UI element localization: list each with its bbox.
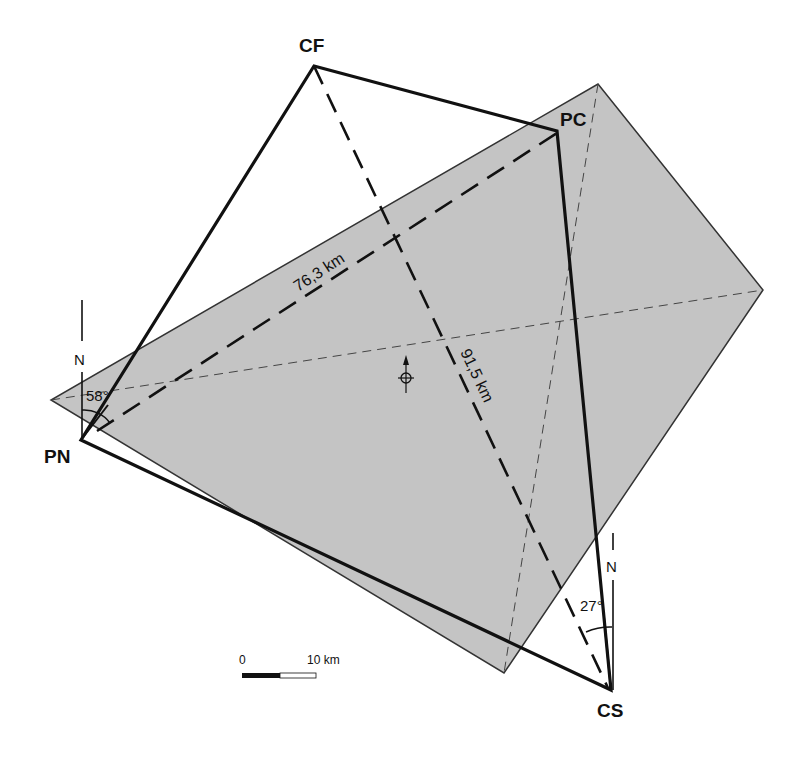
scale-end-label: 10 km xyxy=(307,653,340,667)
north-label-pn: N xyxy=(74,351,85,368)
cs-inner-ray xyxy=(604,617,611,690)
map-diagram: N N 58° 27° 76,3 km 91,5 km CF PC CS PN … xyxy=(0,0,805,758)
vertex-label-cf: CF xyxy=(299,35,324,56)
scale-bar: 0 10 km xyxy=(239,653,340,678)
scale-start-label: 0 xyxy=(239,653,246,667)
vertex-label-pn: PN xyxy=(44,446,70,467)
angle-label-pn: 58° xyxy=(86,387,109,404)
vertex-label-pc: PC xyxy=(560,109,587,130)
angle-label-cs: 27° xyxy=(580,597,603,614)
north-label-cs: N xyxy=(606,558,617,575)
vertex-label-cs: CS xyxy=(597,700,623,721)
angle-arc-cs xyxy=(586,627,612,632)
